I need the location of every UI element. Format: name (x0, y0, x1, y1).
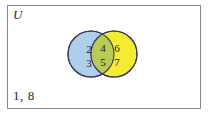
outside-elements-label: 1, 8 (13, 89, 35, 102)
element-right-only-2: 7 (110, 57, 124, 68)
element-intersection-2: 5 (96, 57, 110, 68)
element-right-only-1: 6 (110, 43, 124, 54)
element-intersection-1: 4 (96, 43, 110, 54)
venn-diagram-figure: U 2 3 4 5 6 7 1, 8 (0, 0, 208, 117)
element-left-only-2: 3 (82, 58, 96, 69)
element-left-only-1: 2 (82, 44, 96, 55)
